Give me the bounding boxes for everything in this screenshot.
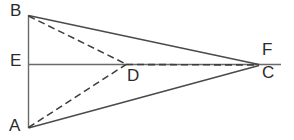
segment-AD [29,65,127,128]
vertex-label-e: E [10,52,21,69]
segment-AC [29,66,260,129]
vertex-label-d: D [127,67,139,84]
vertex-label-a: A [9,117,20,134]
vertex-label-f: F [262,41,272,58]
geometry-canvas [0,0,294,140]
vertex-label-c: C [262,64,274,81]
vertex-label-b: B [10,2,21,19]
segment-BC [29,16,260,65]
segment-BD [29,16,127,64]
geometry-figure: B E A D F C [0,0,294,140]
